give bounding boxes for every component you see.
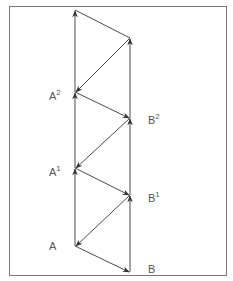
- arrow-A-to-B: [75, 246, 129, 272]
- frame-border: [10, 7, 227, 276]
- label-A1: A1: [49, 164, 61, 178]
- arrow-B3-to-A2: [76, 38, 130, 92]
- arrows: [75, 10, 130, 272]
- arrow-B2-to-A1: [76, 118, 130, 168]
- arrow-A2-to-B2: [75, 92, 129, 118]
- arrow-A1-to-B1: [75, 168, 129, 195]
- arrow-B1-to-A: [76, 195, 130, 246]
- label-B2: B2: [148, 112, 160, 126]
- label-A: A: [49, 240, 57, 252]
- label-A2: A2: [49, 88, 61, 102]
- label-B: B: [148, 263, 155, 275]
- label-B1: B1: [148, 190, 160, 204]
- zigzag-vector-diagram: A2 B2 A1 B1 A B: [0, 0, 233, 281]
- line-A3-to-B3: [75, 10, 130, 38]
